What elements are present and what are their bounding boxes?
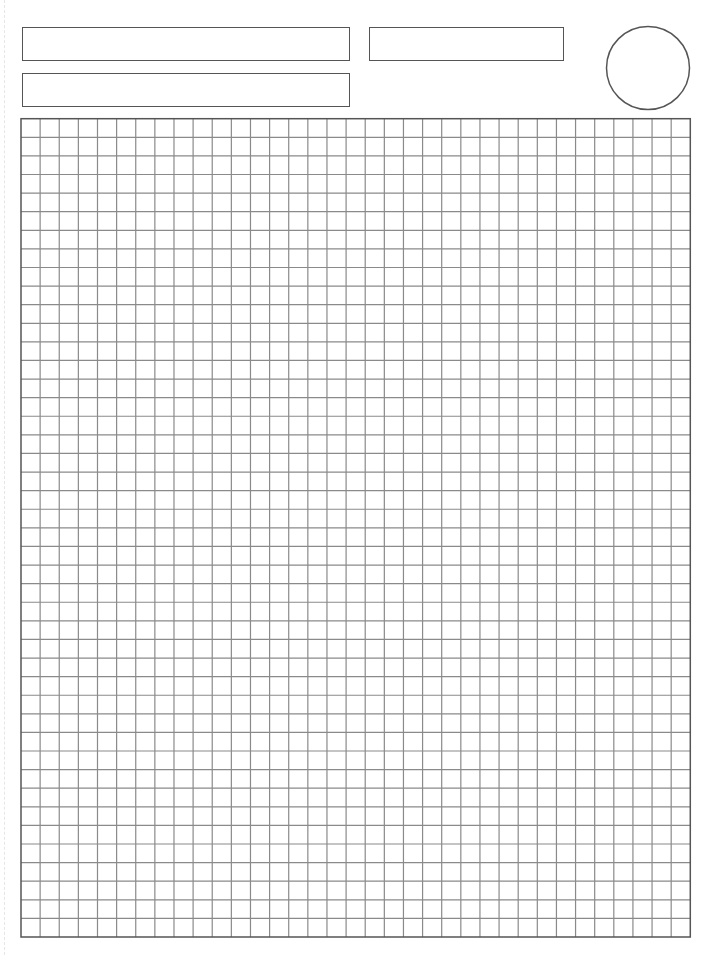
- graph-paper-grid: [0, 0, 713, 955]
